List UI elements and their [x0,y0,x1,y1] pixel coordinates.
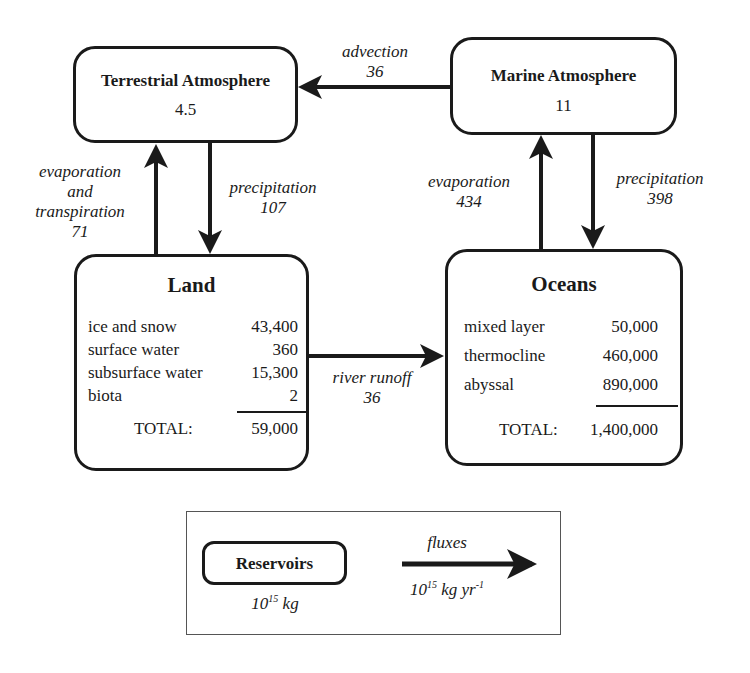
legend: Reservoirs 1015 kg fluxes 1015 kg yr-1 [186,511,561,635]
marine-atmosphere-box: Marine Atmosphere 11 [450,37,677,135]
oceans-row-value: 460,000 [603,346,658,366]
advection-value: 36 [320,62,430,82]
ocean-precipitation-label-text: precipitation [600,169,720,189]
land-precipitation-label-text: precipitation [218,178,328,198]
terrestrial-atmosphere-value: 4.5 [76,100,295,120]
land-row-value: 15,300 [251,363,298,383]
land-evaporation-line-2: and [20,182,140,202]
land-evaporation-value: 71 [20,222,140,242]
land-row-value: 43,400 [251,317,298,337]
land-total-label: TOTAL: [134,419,193,439]
land-row-value: 360 [273,340,299,360]
land-evaporation-label: evaporation and transpiration 71 [20,162,140,242]
legend-flux-unit-mid: kg yr [437,580,476,599]
land-box: Land ice and snow 43,400 surface water 3… [74,254,309,471]
ocean-precipitation-value: 398 [600,189,720,209]
river-runoff-label-text: river runoff [312,368,432,388]
land-row: surface water 360 [88,340,298,360]
oceans-total-rule [596,405,678,407]
advection-label: advection 36 [320,42,430,82]
legend-reservoir-unit: 1015 kg [215,589,335,614]
river-runoff-value: 36 [312,388,432,408]
oceans-row: thermocline 460,000 [464,346,658,366]
marine-atmosphere-title: Marine Atmosphere [453,66,674,86]
legend-flux-unit-exp2: -1 [476,579,484,590]
terrestrial-atmosphere-title: Terrestrial Atmosphere [76,71,295,91]
legend-reservoir-unit-suffix: kg [278,594,298,613]
land-evaporation-line-1: evaporation [20,162,140,182]
land-row-label: surface water [88,340,179,359]
oceans-row: abyssal 890,000 [464,375,658,395]
legend-reservoir-unit-exp: 15 [268,593,278,604]
oceans-row-label: mixed layer [464,317,545,336]
land-row-label: ice and snow [88,317,177,336]
land-title: Land [77,273,306,298]
oceans-title: Oceans [448,272,680,297]
ocean-precipitation-label: precipitation 398 [600,169,720,209]
oceans-total-label: TOTAL: [499,420,558,440]
oceans-row-value: 50,000 [611,317,658,337]
land-row-label: subsurface water [88,363,203,382]
land-total-rule [237,411,306,413]
land-row-label: biota [88,386,122,405]
ocean-evaporation-value: 434 [414,192,524,212]
legend-reservoir-label: Reservoirs [205,554,344,574]
oceans-box: Oceans mixed layer 50,000 thermocline 46… [445,249,683,466]
legend-flux-label: fluxes [397,533,497,553]
land-row: ice and snow 43,400 [88,317,298,337]
land-evaporation-line-3: transpiration [20,202,140,222]
river-runoff-label: river runoff 36 [312,368,432,408]
legend-flux-unit-base: 10 [410,580,427,599]
land-precipitation-value: 107 [218,198,328,218]
ocean-evaporation-label-text: evaporation [414,172,524,192]
land-row: biota 2 [88,386,298,406]
advection-label-text: advection [320,42,430,62]
legend-reservoir-box: Reservoirs [202,541,347,585]
land-total-value: 59,000 [251,419,298,439]
legend-reservoir-unit-base: 10 [251,594,268,613]
legend-flux-unit-exp: 15 [427,579,437,590]
oceans-row-value: 890,000 [603,375,658,395]
land-row: subsurface water 15,300 [88,363,298,383]
oceans-row-label: abyssal [464,375,514,394]
oceans-row-label: thermocline [464,346,545,365]
marine-atmosphere-value: 11 [453,96,674,116]
land-precipitation-label: precipitation 107 [218,178,328,218]
land-row-value: 2 [290,386,299,406]
oceans-row: mixed layer 50,000 [464,317,658,337]
terrestrial-atmosphere-box: Terrestrial Atmosphere 4.5 [73,46,298,143]
oceans-total-value: 1,400,000 [590,420,658,440]
ocean-evaporation-label: evaporation 434 [414,172,524,212]
legend-flux-unit: 1015 kg yr-1 [377,575,517,600]
